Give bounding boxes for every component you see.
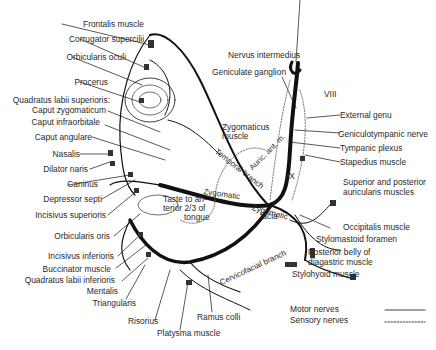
label-taste-3: tongue bbox=[184, 213, 210, 223]
label-risorius: Risorius bbox=[128, 317, 158, 327]
label-occipitalis: Occipitalis muscle bbox=[343, 223, 410, 233]
label-caput-infraorbitale: Caput infraorbitale bbox=[32, 118, 100, 128]
label-caput-zygomaticum: Caput zygomaticum bbox=[32, 106, 106, 116]
label-incisivus-superioris: Incisivus superioris bbox=[35, 211, 106, 221]
label-geniculotympanic-nerve: Geniculotympanic nerve bbox=[338, 130, 428, 140]
label-orbicularis-oculi: Orbicularis oculi bbox=[66, 53, 126, 63]
eye-orbit bbox=[125, 78, 175, 122]
label-mentalis: Mentalis bbox=[87, 287, 118, 297]
label-caput-angulare: Caput angulare bbox=[35, 133, 92, 143]
label-nervus-intermedius: Nervus intermedius bbox=[228, 51, 300, 61]
label-dilator-naris: Dilator naris bbox=[43, 165, 88, 175]
label-ramus-colli: Ramus colli bbox=[197, 313, 240, 323]
label-platysma: Platysma muscle bbox=[157, 329, 220, 339]
label-stylomastoid-foramen: Stylomastoid foramen bbox=[316, 235, 397, 245]
label-geniculate-ganglion: Geniculate ganglion bbox=[212, 68, 286, 78]
label-incisivus-inferioris: Incisivus inferioris bbox=[48, 252, 114, 262]
label-zygomaticus-2: muscle bbox=[222, 132, 249, 142]
label-tympanic-plexus: Tympanic plexus bbox=[340, 144, 402, 154]
label-orbicularis-oris: Orbicularis oris bbox=[54, 232, 110, 242]
label-depressor-septi: Depressor septi bbox=[43, 195, 102, 205]
facial-nerve-diagram bbox=[0, 0, 436, 350]
legend-sensory: Sensory nerves bbox=[290, 316, 348, 326]
label-procerus: Procerus bbox=[74, 78, 108, 88]
label-zygomatic-facia-2: facia bbox=[260, 212, 278, 222]
label-superior-posterior-2: auricularis muscles bbox=[343, 188, 414, 198]
label-stylohyoid: Stylohyoid muscle bbox=[292, 270, 360, 280]
label-corrugator: Corrugator supercilii bbox=[69, 35, 144, 45]
label-stapedius: Stapedius muscle bbox=[340, 158, 406, 168]
label-external-genu: External genu bbox=[340, 111, 392, 121]
legend-motor: Motor nerves bbox=[290, 305, 339, 315]
label-ix: IX bbox=[287, 172, 295, 182]
label-buccinator: Buccinator muscle bbox=[43, 265, 111, 275]
label-posterior-belly-2: diagastric muscle bbox=[308, 258, 373, 268]
label-triangularis: Triangularis bbox=[93, 299, 136, 309]
label-caninus: Caninus bbox=[67, 180, 98, 190]
label-nasalis: Nasalis bbox=[53, 150, 80, 160]
label-viii: VIII bbox=[324, 90, 337, 100]
label-frontalis: Frontalis muscle bbox=[83, 20, 144, 30]
label-quadratus-inferioris: Quadratus labii inferioris bbox=[25, 276, 115, 286]
